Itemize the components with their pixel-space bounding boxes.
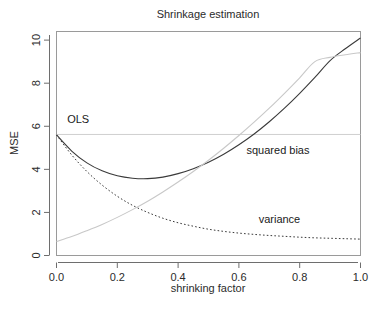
annotation-ols: OLS [67, 113, 89, 125]
annotation-variance: variance [259, 213, 301, 225]
shrinkage-estimation-chart: Shrinkage estimation 0246810 MSE 0.00.20… [0, 0, 392, 314]
y-axis-label: MSE [8, 131, 20, 155]
annotation-squared-bias: squared bias [247, 144, 310, 156]
y-tick-label: 10 [30, 34, 42, 46]
y-tick-label: 8 [30, 80, 42, 86]
x-tick-label: 0.0 [49, 271, 64, 283]
x-tick-label: 0.8 [292, 271, 307, 283]
x-tick-label: 1.0 [353, 271, 368, 283]
chart-background [0, 0, 392, 314]
y-tick-label: 4 [30, 166, 42, 172]
x-axis-label: shrinking factor [171, 282, 246, 294]
x-tick-label: 0.2 [110, 271, 125, 283]
y-tick-label: 2 [30, 209, 42, 215]
y-tick-label: 0 [30, 252, 42, 258]
y-tick-label: 6 [30, 123, 42, 129]
chart-root: Shrinkage estimation 0246810 MSE 0.00.20… [0, 0, 392, 314]
chart-title: Shrinkage estimation [157, 8, 260, 20]
